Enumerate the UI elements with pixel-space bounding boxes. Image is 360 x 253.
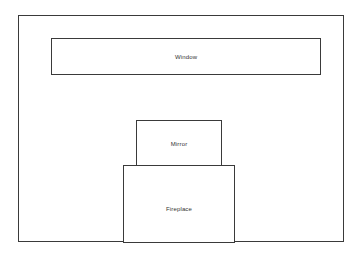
window-shape[interactable]: Window: [51, 38, 321, 75]
window-label: Window: [52, 54, 320, 60]
diagram-canvas: Window Mirror Fireplace: [0, 0, 360, 253]
fireplace-shape[interactable]: Fireplace: [123, 165, 235, 243]
mirror-shape[interactable]: Mirror: [136, 120, 222, 170]
mirror-label: Mirror: [137, 141, 221, 147]
fireplace-label: Fireplace: [124, 206, 234, 212]
